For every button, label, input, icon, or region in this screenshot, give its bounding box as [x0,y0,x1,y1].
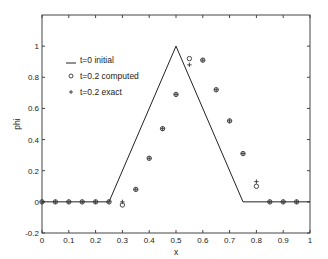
y-tick-label: -0.2 [25,229,39,238]
x-axis-label: x [174,247,179,257]
legend-item: t=0.2 computed [69,71,139,81]
x-tick-label: 0.4 [144,236,156,245]
y-tick-label: 0.2 [28,167,40,176]
x-tick-label: 0.1 [63,236,75,245]
legend-label: t=0.2 exact [80,87,122,97]
x-tick-label: 0.5 [170,236,182,245]
y-tick-label: 1 [35,42,40,51]
y-tick-label: 0.6 [28,104,40,113]
y-tick-label: 0 [35,198,40,207]
chart: 00.10.20.30.40.50.60.70.80.91 -0.200.20.… [0,0,328,259]
y-tick-label: 0.4 [28,136,40,145]
legend-label: t=0 initial [80,55,114,65]
x-tick-label: 0.7 [224,236,236,245]
x-tick-label: 1 [308,236,313,245]
y-tick-label: 0.8 [28,73,40,82]
x-tick-label: 0.2 [90,236,102,245]
x-tick-label: 0.9 [278,236,290,245]
y-axis-label: phi [12,118,22,129]
x-tick-label: 0 [40,236,45,245]
legend-label: t=0.2 computed [80,71,139,81]
x-tick-label: 0.6 [197,236,209,245]
x-tick-label: 0.8 [251,236,263,245]
x-tick-label: 0.3 [117,236,129,245]
